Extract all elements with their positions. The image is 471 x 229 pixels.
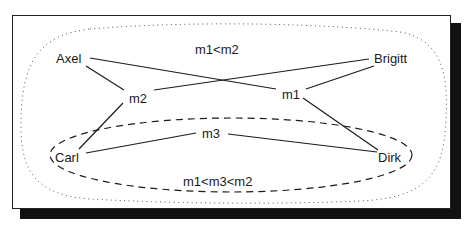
outer-region-label: m1<m2 <box>195 42 239 57</box>
edge-carl-m3 <box>86 133 196 153</box>
node-m1: m1 <box>282 87 300 102</box>
edge-brigitt-m1 <box>306 66 374 89</box>
edge-axel-m2 <box>86 66 124 90</box>
inner-region-label: m1<m3<m2 <box>183 174 252 189</box>
node-axel: Axel <box>56 51 81 66</box>
node-m3: m3 <box>202 126 220 141</box>
edge-axel-m1 <box>90 58 276 89</box>
diagram-canvas: Axel Brigitt m2 m1 m3 Carl Dirk m1<m2 m1… <box>0 0 471 229</box>
edge-dirk-m1 <box>303 98 378 150</box>
node-m2: m2 <box>129 91 147 106</box>
node-dirk: Dirk <box>378 150 402 165</box>
node-carl: Carl <box>55 150 79 165</box>
edge-dirk-m3 <box>228 134 377 152</box>
node-brigitt: Brigitt <box>374 51 408 66</box>
